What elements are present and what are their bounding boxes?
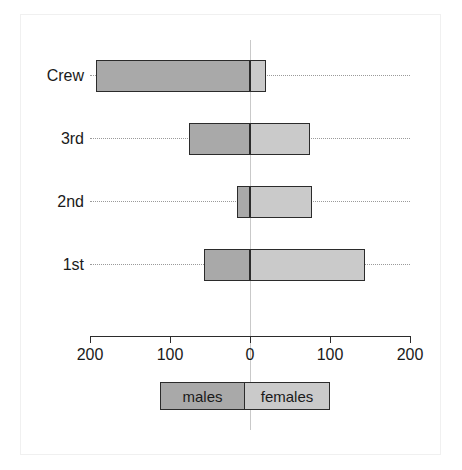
bar-3rd-males — [189, 123, 250, 155]
x-axis-tick-label: 100 — [140, 346, 200, 364]
bar-row-2nd: 2nd — [0, 185, 462, 219]
bar-2nd-females — [250, 186, 312, 218]
chart-legend: males females — [160, 382, 330, 410]
zero-reference-line — [250, 40, 251, 430]
x-axis-tick — [410, 336, 411, 343]
legend-swatch-males: males — [161, 383, 245, 409]
x-axis-tick-label: 0 — [220, 346, 280, 364]
bar-1st-males — [204, 249, 250, 281]
bar-crew-females — [250, 60, 266, 92]
category-label-3rd: 3rd — [24, 130, 84, 148]
bar-row-1st: 1st — [0, 248, 462, 282]
bar-3rd-females — [250, 123, 310, 155]
x-axis-tick — [90, 336, 91, 343]
bar-2nd-males — [237, 186, 250, 218]
x-axis-tick — [250, 336, 251, 343]
x-axis-tick-label: 100 — [300, 346, 360, 364]
bar-1st-females — [250, 249, 365, 281]
x-axis-tick-label: 200 — [60, 346, 120, 364]
x-axis-tick — [330, 336, 331, 343]
legend-swatch-females: females — [245, 383, 329, 409]
category-label-2nd: 2nd — [24, 193, 84, 211]
chart-figure: Crew 3rd 2nd 1st 2001000100200 — [0, 0, 462, 470]
category-label-crew: Crew — [24, 67, 84, 85]
x-axis-tick — [170, 336, 171, 343]
bar-row-crew: Crew — [0, 59, 462, 93]
plot-area: Crew 3rd 2nd 1st 2001000100200 — [0, 0, 462, 470]
bar-crew-males — [96, 60, 250, 92]
bar-row-3rd: 3rd — [0, 122, 462, 156]
x-axis-tick-label: 200 — [380, 346, 440, 364]
category-label-1st: 1st — [24, 256, 84, 274]
